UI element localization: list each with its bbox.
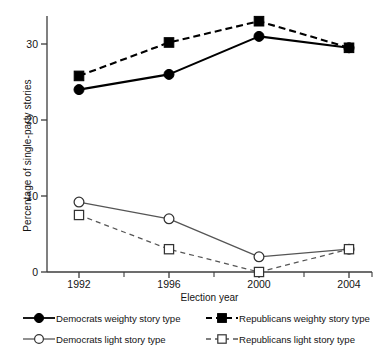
x-tick-label-2004: 2004 <box>319 279 379 290</box>
data-point-marker <box>74 71 84 81</box>
legend-label-dem-weighty: Democrats weighty story type <box>56 313 180 324</box>
chart-figure: 30 20 10 0 1992 1996 2000 2004 Percentag… <box>0 0 379 353</box>
data-point-marker <box>254 252 264 262</box>
chart-legend: Democrats weighty story type Democrats l… <box>0 308 379 353</box>
plot-svg <box>0 0 379 300</box>
legend-swatch-open-square-dashed <box>205 331 239 347</box>
x-axis-title: Election year <box>47 292 372 303</box>
y-axis-title: Percentage of single-party stories <box>22 41 33 271</box>
series-layer <box>74 16 354 276</box>
legend-swatch-filled-circle-solid <box>22 310 56 326</box>
data-point-marker <box>254 267 263 276</box>
data-point-marker <box>254 31 264 41</box>
data-point-marker <box>344 43 354 53</box>
x-tick-label-1996: 1996 <box>139 279 199 290</box>
legend-swatch-filled-square-dashed <box>205 310 239 326</box>
data-point-marker <box>164 214 174 224</box>
legend-item-rep-weighty: Republicans weighty story type <box>205 308 379 328</box>
data-point-marker <box>164 69 174 79</box>
legend-label-rep-light: Republicans light story type <box>239 334 355 345</box>
plot-area: 30 20 10 0 1992 1996 2000 2004 Percentag… <box>0 0 379 300</box>
data-point-marker <box>164 245 173 254</box>
legend-label-dem-light: Democrats light story type <box>56 334 166 345</box>
data-point-marker <box>74 85 84 95</box>
y-axis-ticks <box>41 44 47 272</box>
data-point-marker <box>164 38 174 48</box>
data-point-marker <box>254 16 264 26</box>
x-axis-ticks <box>79 272 372 278</box>
legend-swatch-open-circle-solid <box>22 331 56 347</box>
data-point-marker <box>344 245 353 254</box>
legend-item-rep-light: Republicans light story type <box>205 329 379 349</box>
x-tick-label-2000: 2000 <box>229 279 289 290</box>
legend-label-rep-weighty: Republicans weighty story type <box>239 313 370 324</box>
legend-item-dem-weighty: Democrats weighty story type <box>22 308 202 328</box>
legend-item-dem-light: Democrats light story type <box>22 329 202 349</box>
data-point-marker <box>74 197 84 207</box>
data-point-marker <box>74 210 83 219</box>
x-tick-label-1992: 1992 <box>49 279 109 290</box>
